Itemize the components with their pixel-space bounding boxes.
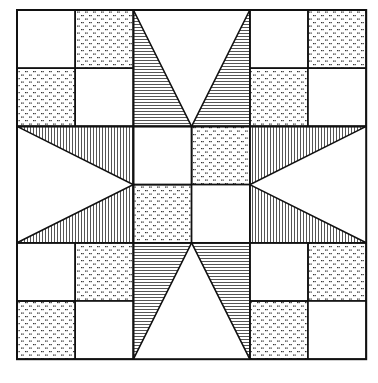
square-white [250,10,308,68]
top-right-star-point [192,10,250,126]
square-dotted [250,301,308,359]
square-dotted [17,301,75,359]
right-lower-star-point [250,185,366,243]
square-white [17,10,75,68]
square-dotted [75,10,133,68]
left-lower-star-point [17,185,133,243]
bottom-left-star-point [133,243,191,359]
square-white [192,185,250,243]
right-upper-star-point [250,126,366,184]
square-dotted [308,243,366,301]
square-white [133,126,191,184]
quilt-block-diagram [0,0,378,383]
top-left-star-point [133,10,191,126]
square-dotted [75,243,133,301]
square-white [308,68,366,126]
left-upper-star-point [17,126,133,184]
square-white [250,243,308,301]
square-dotted [17,68,75,126]
square-dotted [308,10,366,68]
square-white [75,68,133,126]
square-white [308,301,366,359]
square-dotted [192,126,250,184]
square-white [17,243,75,301]
squares-layer [17,10,366,359]
square-dotted [133,185,191,243]
square-white [75,301,133,359]
bottom-right-star-point [192,243,250,359]
square-dotted [250,68,308,126]
